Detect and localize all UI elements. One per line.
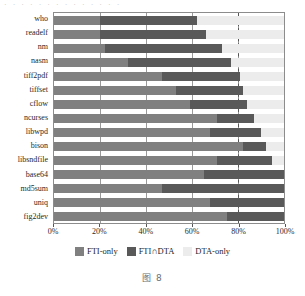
bar-series-group	[54, 13, 284, 223]
bar-row	[54, 13, 284, 27]
bar-segment	[210, 128, 261, 137]
bar-segment	[217, 156, 272, 165]
bar-segment	[162, 184, 284, 193]
bar-segment	[197, 16, 284, 25]
bar-row	[54, 181, 284, 195]
axis-tick-label: 40%	[138, 228, 153, 236]
stacked-bar	[54, 100, 284, 109]
stacked-bar	[54, 156, 284, 165]
bar-segment	[54, 128, 210, 137]
bar-segment	[231, 58, 284, 67]
bar-row	[54, 83, 284, 97]
bar-segment	[206, 30, 284, 39]
stacked-bar	[54, 170, 284, 179]
bar-segment	[54, 198, 210, 207]
bar-segment	[266, 142, 284, 151]
bar-segment	[204, 170, 285, 179]
bar-segment	[54, 114, 217, 123]
stacked-bar	[54, 142, 284, 151]
bar-segment	[54, 212, 227, 221]
bar-segment	[54, 86, 176, 95]
bar-segment	[54, 16, 100, 25]
bar-row	[54, 125, 284, 139]
bar-segment	[54, 58, 128, 67]
stacked-bar	[54, 86, 284, 95]
legend-swatch-icon	[183, 247, 192, 256]
category-label: base64	[0, 168, 51, 182]
bar-segment	[176, 86, 243, 95]
bar-segment	[210, 198, 284, 207]
bar-segment	[272, 156, 284, 165]
bar-segment	[54, 170, 204, 179]
bar-row	[54, 41, 284, 55]
bar-segment	[261, 128, 284, 137]
legend-label: DTA-only	[195, 247, 230, 256]
bar-segment	[190, 100, 248, 109]
axis-tick-label: 80%	[231, 228, 246, 236]
figure-caption: 图 8	[0, 271, 305, 284]
stacked-bar	[54, 16, 284, 25]
legend-item-fti-only: FTI-only	[75, 247, 118, 256]
axis-tick-label: 60%	[185, 228, 200, 236]
bar-segment	[162, 72, 240, 81]
bar-segment	[54, 184, 162, 193]
value-axis: 0%20%40%60%80%100%	[53, 224, 285, 242]
legend-item-dta-only: DTA-only	[183, 247, 230, 256]
bar-segment	[243, 142, 266, 151]
category-label: ncurses	[0, 111, 51, 125]
bar-row	[54, 209, 284, 223]
stacked-bar	[54, 198, 284, 207]
bar-segment	[100, 30, 206, 39]
stacked-bar	[54, 114, 284, 123]
stacked-bar	[54, 58, 284, 67]
category-label: who	[0, 12, 51, 26]
category-label: readelf	[0, 26, 51, 40]
bar-segment	[54, 100, 190, 109]
axis-tick-label: 0%	[48, 228, 59, 236]
bar-row	[54, 55, 284, 69]
bar-segment	[128, 58, 232, 67]
bar-segment	[105, 44, 222, 53]
bar-segment	[240, 72, 284, 81]
category-label: tiff2pdf	[0, 69, 51, 83]
stacked-bar	[54, 30, 284, 39]
bar-segment	[54, 72, 162, 81]
bar-row	[54, 195, 284, 209]
legend-label: FTI∩DTA	[139, 247, 175, 256]
stacked-bar	[54, 44, 284, 53]
bar-segment	[247, 100, 284, 109]
stacked-bar	[54, 184, 284, 193]
bar-row	[54, 27, 284, 41]
bar-row	[54, 111, 284, 125]
bar-row	[54, 167, 284, 181]
top-partial-text: · · · · · · · · · · · · · ·	[0, 0, 305, 9]
category-label: tiffset	[0, 83, 51, 97]
bar-segment	[254, 114, 284, 123]
bar-row	[54, 139, 284, 153]
legend-label: FTI-only	[87, 247, 118, 256]
bar-segment	[222, 44, 284, 53]
bar-row	[54, 153, 284, 167]
bar-segment	[217, 114, 254, 123]
stacked-bar	[54, 212, 284, 221]
legend-swatch-icon	[75, 247, 84, 256]
category-label: uniq	[0, 196, 51, 210]
legend-swatch-icon	[127, 247, 136, 256]
bar-segment	[227, 212, 285, 221]
bar-segment	[54, 30, 100, 39]
stacked-bar	[54, 72, 284, 81]
category-label: nasm	[0, 54, 51, 68]
category-label: libsndfile	[0, 153, 51, 167]
stacked-bar-chart: whoreadelfnmnasmtiff2pdftiffsetcflowncur…	[0, 9, 305, 229]
category-label: fig2dev	[0, 210, 51, 224]
category-label: md5sum	[0, 182, 51, 196]
bar-row	[54, 97, 284, 111]
category-label: libwpd	[0, 125, 51, 139]
bar-segment	[100, 16, 197, 25]
bar-segment	[243, 86, 284, 95]
bar-segment	[54, 44, 105, 53]
category-label: cflow	[0, 97, 51, 111]
bar-segment	[54, 142, 243, 151]
stacked-bar	[54, 128, 284, 137]
plot-area	[53, 12, 285, 224]
